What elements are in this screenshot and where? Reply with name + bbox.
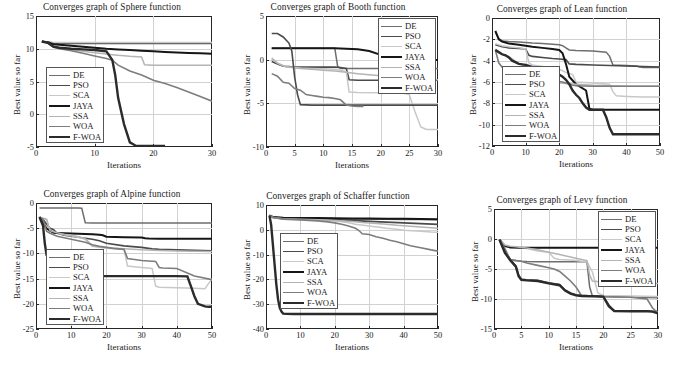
legend-item[interactable]: JAYA bbox=[49, 283, 100, 293]
x-tick-mark bbox=[212, 144, 213, 147]
legend-item[interactable]: SSA bbox=[49, 293, 100, 303]
legend-item[interactable]: PSO bbox=[381, 31, 432, 41]
legend-item[interactable]: F-WOA bbox=[283, 298, 334, 308]
legend-label: JAYA bbox=[73, 284, 93, 293]
y-tick-mark bbox=[36, 16, 39, 17]
legend-item[interactable]: JAYA bbox=[49, 101, 100, 111]
legend-item[interactable]: WOA bbox=[601, 265, 652, 275]
x-tick-mark bbox=[559, 143, 560, 146]
legend-item[interactable]: PSO bbox=[49, 80, 100, 90]
x-tick-label: 10 bbox=[521, 148, 529, 157]
y-tick-mark bbox=[266, 255, 269, 256]
legend-swatch-woa bbox=[49, 126, 70, 127]
legend-label: JAYA bbox=[307, 268, 327, 277]
y-tick-label: 0 bbox=[12, 199, 34, 208]
legend-swatch-woa bbox=[601, 270, 622, 271]
x-tick-mark bbox=[381, 144, 382, 147]
legend-item[interactable]: WOA bbox=[381, 72, 432, 82]
chart-legend[interactable]: DEPSOSCAJAYASSAWOAF-WOA bbox=[598, 211, 656, 287]
legend-swatch-de bbox=[49, 75, 70, 76]
legend-swatch-sca bbox=[283, 261, 304, 262]
legend-label: DE bbox=[405, 22, 416, 31]
x-tick-mark bbox=[323, 144, 324, 147]
legend-item[interactable]: F-WOA bbox=[601, 276, 652, 286]
legend-item[interactable]: SSA bbox=[505, 110, 556, 120]
legend-label: DE bbox=[73, 71, 84, 80]
x-tick-mark bbox=[631, 326, 632, 329]
x-tick-label: 0 bbox=[492, 331, 496, 340]
legend-label: SSA bbox=[73, 112, 89, 121]
legend-item[interactable]: F-WOA bbox=[381, 83, 432, 93]
legend-item[interactable]: SCA bbox=[49, 273, 100, 283]
legend-item[interactable]: PSO bbox=[601, 224, 652, 234]
legend-swatch-de bbox=[283, 241, 304, 242]
legend-item[interactable]: SCA bbox=[601, 235, 652, 245]
legend-item[interactable]: WOA bbox=[49, 121, 100, 131]
legend-item[interactable]: SSA bbox=[381, 62, 432, 72]
legend-label: SCA bbox=[529, 90, 546, 99]
legend-swatch-pso bbox=[49, 85, 70, 86]
x-tick-label: 0 bbox=[490, 148, 494, 157]
y-tick-mark bbox=[36, 203, 39, 204]
chart-legend[interactable]: DEPSOSCAJAYASSAWOAF-WOA bbox=[46, 249, 104, 325]
x-tick-mark bbox=[549, 326, 550, 329]
legend-item[interactable]: WOA bbox=[505, 120, 556, 130]
chart-legend[interactable]: DEPSOSCAJAYASSAWOAF-WOA bbox=[502, 66, 560, 142]
legend-label: JAYA bbox=[529, 101, 549, 110]
legend-item[interactable]: SSA bbox=[49, 111, 100, 121]
legend-item[interactable]: F-WOA bbox=[49, 132, 100, 142]
legend-item[interactable]: DE bbox=[283, 236, 334, 246]
x-tick-label: 10 bbox=[67, 331, 75, 340]
legend-swatch-f-woa bbox=[49, 318, 70, 320]
y-tick-label: 10 bbox=[242, 201, 264, 210]
legend-label: F-WOA bbox=[73, 133, 101, 142]
legend-label: WOA bbox=[73, 122, 94, 131]
legend-item[interactable]: DE bbox=[49, 70, 100, 80]
chart-legend[interactable]: DEPSOSCAJAYASSAWOAF-WOA bbox=[46, 67, 104, 143]
legend-item[interactable]: PSO bbox=[49, 262, 100, 272]
x-tick-mark bbox=[212, 326, 213, 329]
legend-item[interactable]: JAYA bbox=[505, 100, 556, 110]
legend-item[interactable]: PSO bbox=[505, 79, 556, 89]
legend-item[interactable]: JAYA bbox=[601, 245, 652, 255]
legend-item[interactable]: DE bbox=[601, 214, 652, 224]
x-tick-label: 20 bbox=[149, 149, 157, 158]
legend-item[interactable]: JAYA bbox=[381, 52, 432, 62]
chart-legend[interactable]: DEPSOSCAJAYASSAWOAF-WOA bbox=[378, 18, 436, 94]
y-tick-mark bbox=[492, 103, 495, 104]
legend-item[interactable]: SSA bbox=[283, 277, 334, 287]
legend-item[interactable]: PSO bbox=[283, 246, 334, 256]
legend-swatch-de bbox=[381, 26, 402, 27]
x-axis-label: Iterations bbox=[494, 342, 658, 352]
y-tick-label: -5 bbox=[12, 143, 34, 152]
legend-item[interactable]: SCA bbox=[381, 42, 432, 52]
legend-item[interactable]: WOA bbox=[49, 303, 100, 313]
legend-item[interactable]: DE bbox=[381, 21, 432, 31]
x-tick-label: 40 bbox=[622, 148, 630, 157]
legend-item[interactable]: SCA bbox=[505, 90, 556, 100]
legend-swatch-woa bbox=[381, 77, 402, 78]
legend-item[interactable]: F-WOA bbox=[505, 131, 556, 141]
legend-label: F-WOA bbox=[73, 315, 101, 324]
legend-item[interactable]: DE bbox=[505, 69, 556, 79]
chart-legend[interactable]: DEPSOSCAJAYASSAWOAF-WOA bbox=[280, 233, 338, 309]
legend-item[interactable]: SSA bbox=[601, 255, 652, 265]
y-tick-mark bbox=[492, 39, 495, 40]
x-tick-mark bbox=[521, 326, 522, 329]
legend-item[interactable]: DE bbox=[49, 252, 100, 262]
legend-label: JAYA bbox=[625, 246, 645, 255]
y-tick-label: -10 bbox=[468, 120, 490, 129]
x-tick-mark bbox=[142, 326, 143, 329]
x-tick-label: 5 bbox=[293, 149, 297, 158]
series-line-sca bbox=[42, 42, 212, 43]
legend-item[interactable]: WOA bbox=[283, 287, 334, 297]
legend-swatch-de bbox=[601, 219, 622, 220]
legend-item[interactable]: SCA bbox=[283, 257, 334, 267]
legend-swatch-ssa bbox=[283, 282, 304, 283]
legend-label: DE bbox=[529, 70, 540, 79]
legend-item[interactable]: SCA bbox=[49, 91, 100, 101]
legend-swatch-woa bbox=[283, 292, 304, 293]
legend-item[interactable]: F-WOA bbox=[49, 314, 100, 324]
legend-item[interactable]: JAYA bbox=[283, 267, 334, 277]
y-tick-mark bbox=[492, 18, 495, 19]
